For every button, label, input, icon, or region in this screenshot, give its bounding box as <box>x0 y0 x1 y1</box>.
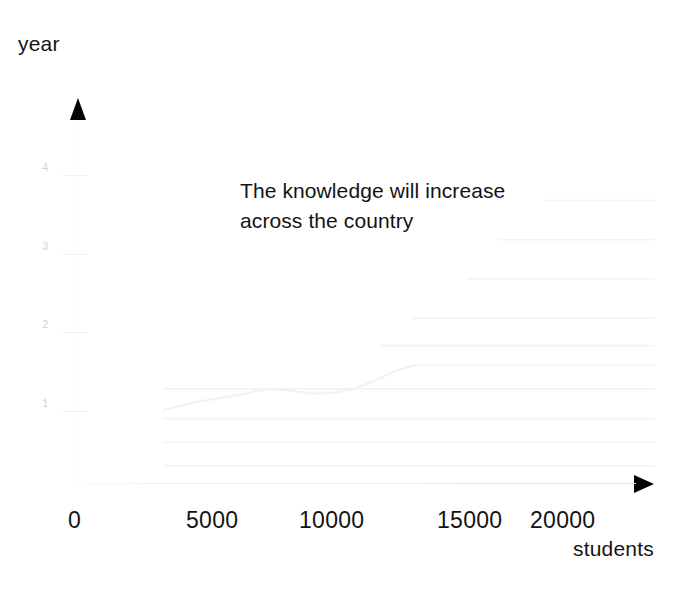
x-axis-title: students <box>573 537 654 561</box>
x-tick-label: 15000 <box>437 507 502 534</box>
y-tick-label: 3 <box>32 241 48 252</box>
x-axis-arrow-icon <box>634 475 654 493</box>
chart-annotation: The knowledge will increase across the c… <box>240 176 505 236</box>
gridline-group <box>163 200 655 465</box>
y-tick-label: 4 <box>32 162 48 173</box>
y-axis-title: year <box>18 32 60 56</box>
y-tick-mark <box>62 332 88 333</box>
y-tick-mark <box>62 254 88 255</box>
y-tick-label: 2 <box>32 319 48 330</box>
y-tick-label: 1 <box>32 398 48 409</box>
y-axis-arrow-icon <box>70 98 86 120</box>
x-tick-label: 10000 <box>299 507 364 534</box>
y-tick-mark <box>62 175 88 176</box>
y-tick-mark <box>62 411 88 412</box>
data-line <box>163 365 414 410</box>
x-tick-label: 5000 <box>186 507 238 534</box>
data-series-group <box>163 365 414 410</box>
x-tick-label: 20000 <box>530 507 595 534</box>
x-tick-label: 0 <box>68 507 81 534</box>
x-axis-line <box>78 483 636 484</box>
line-chart: year students 1234 05000100001500020000 … <box>0 0 693 601</box>
